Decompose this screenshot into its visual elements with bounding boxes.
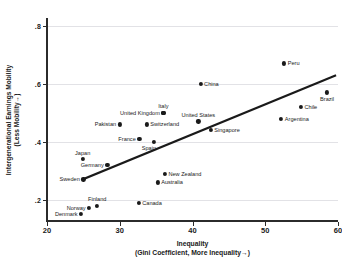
data-point-label: France: [118, 136, 135, 142]
data-point-label: Australia: [161, 179, 183, 185]
x-axis-title-main: Inequality: [177, 240, 209, 247]
data-point-label: Japan: [75, 150, 90, 156]
data-point: [161, 111, 165, 115]
y-tick: [43, 200, 48, 201]
data-point-label: Germany: [81, 162, 104, 168]
data-point-label: Chile: [304, 104, 317, 110]
data-point-label: Brazil: [320, 96, 334, 102]
data-point-label: Peru: [288, 60, 300, 66]
data-point-label: Norway: [67, 205, 86, 211]
data-point-label: Denmark: [55, 211, 78, 217]
y-tick: [43, 84, 48, 85]
data-point: [95, 203, 99, 207]
data-point: [81, 177, 85, 181]
plot-area: .2.4.6.8 2030405060 DenmarkNorwayFinland…: [47, 20, 338, 220]
data-point: [163, 172, 167, 176]
data-point: [137, 137, 141, 141]
data-point-label: Canada: [142, 200, 162, 206]
data-point: [118, 122, 122, 126]
x-tick-label: 50: [261, 226, 269, 235]
y-axis-title-main: Intergenerational Earnings Mobility: [5, 65, 12, 175]
data-point: [299, 105, 303, 109]
data-point-label: Spain: [142, 145, 156, 151]
data-point-label: Argentina: [285, 116, 309, 122]
data-point: [87, 206, 91, 210]
data-point-label: Pakistan: [95, 121, 116, 127]
data-point: [152, 140, 156, 144]
x-axis-title-sub: (Gini Coefficient, More Inequality→): [135, 249, 250, 256]
y-tick-label: .6: [35, 80, 41, 87]
data-point-label: China: [204, 81, 219, 87]
x-axis-title: Inequality (Gini Coefficient, More Inequ…: [47, 240, 338, 257]
data-point-label: United States: [182, 112, 216, 118]
data-point-label: Italy: [158, 103, 168, 109]
data-point: [209, 128, 213, 132]
data-point: [198, 82, 202, 86]
data-point: [325, 90, 329, 94]
data-point: [81, 157, 85, 161]
y-tick-label: .8: [35, 22, 41, 29]
data-point: [196, 119, 200, 123]
y-axis-title-sub: (Less Mobility→): [13, 94, 20, 147]
data-point: [105, 163, 109, 167]
data-point-label: United Kingdom: [120, 110, 160, 116]
y-tick: [43, 142, 48, 143]
data-point-label: Switzerland: [150, 121, 179, 127]
data-point-label: Finland: [88, 196, 106, 202]
data-point: [145, 122, 149, 126]
y-axis-title: Intergenerational Earnings Mobility (Les…: [4, 20, 22, 220]
gridline: [47, 26, 338, 27]
gridline: [47, 142, 338, 143]
y-tick: [43, 26, 48, 27]
data-point: [155, 180, 159, 184]
great-gatsby-curve-chart: .2.4.6.8 2030405060 DenmarkNorwayFinland…: [0, 0, 342, 267]
data-point-label: New Zealand: [168, 171, 201, 177]
x-tick-label: 30: [116, 226, 124, 235]
data-point-label: Singapore: [214, 127, 240, 133]
data-point: [79, 212, 83, 216]
y-tick-label: .2: [35, 196, 41, 203]
data-point-label: Sweden: [60, 176, 80, 182]
data-point: [282, 61, 286, 65]
x-tick-label: 40: [188, 226, 196, 235]
x-tick-label: 60: [334, 226, 342, 235]
y-tick-label: .4: [35, 138, 41, 145]
gridline: [47, 84, 338, 85]
data-point: [279, 116, 283, 120]
x-tick-label: 20: [43, 226, 51, 235]
data-point: [137, 201, 141, 205]
